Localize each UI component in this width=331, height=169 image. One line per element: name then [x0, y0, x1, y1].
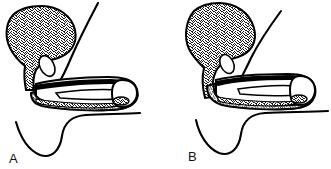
tip-node: [291, 95, 307, 103]
panel-a: A: [7, 3, 140, 166]
tip-node: [113, 97, 129, 105]
figure-canvas: A B: [0, 0, 331, 169]
anatomical-figure: A B: [0, 0, 331, 169]
bulbous-stippled-body: [7, 6, 76, 90]
panel-b: B: [186, 3, 328, 164]
panel-b-label: B: [188, 149, 197, 164]
panel-a-label: A: [9, 151, 18, 166]
perineal-scrotal-contour: [196, 111, 328, 154]
perineal-scrotal-contour: [16, 113, 140, 156]
